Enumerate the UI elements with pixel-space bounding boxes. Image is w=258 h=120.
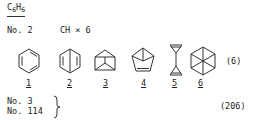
reference-number: (6): [226, 56, 241, 66]
prismane-icon: [93, 49, 117, 73]
structure-label: 4: [141, 78, 146, 88]
right-brace-icon: [53, 95, 61, 119]
structure-label: 6: [198, 78, 203, 88]
group-formula: CH × 6: [60, 25, 91, 35]
structure-label: 3: [103, 78, 108, 88]
entry-number: No. 114: [7, 106, 43, 116]
molecular-formula: C6H6: [7, 2, 25, 17]
benzvalene-icon: [130, 46, 156, 74]
structure-label: 2: [67, 78, 72, 88]
reference-number: (206): [220, 101, 246, 111]
structure-label: 1: [26, 78, 31, 88]
structure-label: 5: [172, 78, 177, 88]
dewar-benzene-icon: [59, 48, 81, 74]
bicyclopropenyl-icon: [168, 43, 184, 77]
entry-number: No. 3: [7, 96, 33, 106]
entry-number: No. 2: [7, 25, 33, 35]
hexagon-spoke-icon: [190, 46, 216, 76]
benzene-icon: [18, 48, 40, 74]
